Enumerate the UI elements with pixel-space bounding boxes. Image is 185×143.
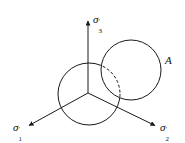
circle-A bbox=[101, 40, 161, 100]
label-sigma2: σ′2 bbox=[160, 122, 165, 133]
label-sigma1-sub: 1 bbox=[18, 136, 22, 143]
label-sigma2-prime: ′ bbox=[165, 126, 167, 133]
label-sigma3-sub: 3 bbox=[98, 28, 102, 35]
axis-sigma2 bbox=[88, 93, 155, 126]
label-sigma2-sub: 2 bbox=[165, 136, 169, 143]
label-sigma1: σ′1 bbox=[13, 122, 18, 133]
label-sigma3: σ′3 bbox=[93, 14, 98, 25]
label-sigma3-prime: ′ bbox=[98, 18, 100, 25]
label-sigma1-prime: ′ bbox=[18, 126, 20, 133]
label-A: A bbox=[165, 55, 172, 66]
